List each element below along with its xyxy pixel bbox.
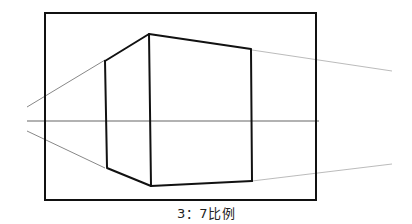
box-top-edges [105, 34, 251, 61]
perspective-box [105, 34, 252, 186]
box-left-edge [105, 61, 107, 167]
box-right-edge [251, 50, 252, 181]
guide-line-bottom-right [252, 164, 392, 181]
box-front-edge [149, 34, 151, 186]
box-bottom-edges [107, 168, 252, 186]
diagram-caption: 3：7比例 [0, 203, 412, 222]
guide-line-bottom-left [27, 131, 105, 168]
picture-frame [45, 13, 316, 200]
guide-line-top-right [252, 50, 392, 71]
guide-line-top-left [27, 60, 105, 107]
perspective-diagram [0, 0, 412, 224]
